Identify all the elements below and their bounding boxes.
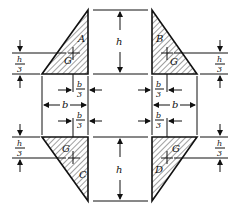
svg-text:3: 3 — [156, 90, 161, 99]
svg-text:3: 3 — [17, 65, 22, 74]
label-g-b: G — [170, 56, 178, 67]
svg-text:h: h — [17, 55, 22, 64]
label-c: C — [79, 169, 87, 180]
svg-text:3: 3 — [77, 121, 82, 130]
svg-text:h: h — [217, 55, 222, 64]
b-third-left-top: b 3 — [58, 80, 102, 99]
b-third-right-top: b 3 — [138, 80, 182, 99]
svg-text:b: b — [156, 111, 161, 120]
svg-text:3: 3 — [217, 65, 222, 74]
b-third-left-bottom: b 3 — [58, 111, 102, 130]
svg-text:3: 3 — [17, 149, 22, 158]
svg-text:h: h — [116, 164, 122, 175]
svg-text:b: b — [77, 111, 82, 120]
svg-text:b: b — [62, 99, 68, 110]
svg-text:h: h — [17, 139, 22, 148]
label-d: D — [154, 164, 163, 175]
label-b: B — [155, 33, 163, 44]
b-dimension-left: b — [44, 99, 86, 110]
svg-text:3: 3 — [217, 149, 222, 158]
label-g-a: G — [64, 55, 72, 66]
b-third-right-bottom: b 3 — [138, 111, 182, 130]
svg-text:3: 3 — [77, 90, 82, 99]
label-g-c: G — [62, 143, 70, 154]
triangle-centroid-diagram: h h h 3 h 3 h 3 — [0, 0, 241, 210]
svg-text:h: h — [116, 36, 122, 47]
svg-text:b: b — [156, 80, 161, 89]
height-dimension-bottom: h — [93, 137, 148, 201]
svg-text:b: b — [77, 80, 82, 89]
b-dimension-right: b — [154, 99, 195, 110]
svg-text:3: 3 — [156, 121, 161, 130]
svg-text:h: h — [217, 139, 222, 148]
svg-text:b: b — [172, 99, 178, 110]
height-dimension-top: h — [93, 10, 148, 74]
label-g-d: G — [172, 143, 180, 154]
label-a: A — [77, 33, 85, 44]
